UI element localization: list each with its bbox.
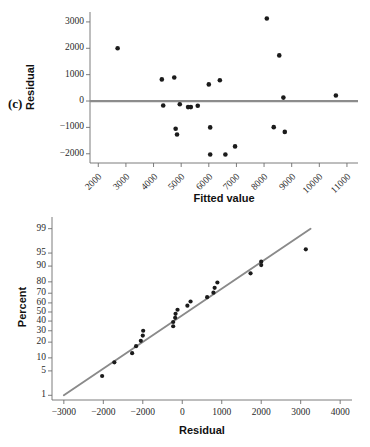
- data-point: [177, 102, 182, 107]
- data-point: [334, 93, 339, 98]
- data-point: [173, 312, 177, 316]
- y-axis-title-percent: Percent: [16, 277, 28, 337]
- data-point: [282, 130, 287, 135]
- data-point: [172, 75, 177, 80]
- data-point: [100, 374, 104, 378]
- data-point: [115, 46, 120, 51]
- tick-label: −1000: [48, 121, 84, 131]
- tick-label: 1000: [202, 407, 242, 417]
- data-point: [175, 308, 179, 312]
- chart-residuals-vs-fitted: −2000−10000100020003000 2000300040005000…: [0, 0, 370, 212]
- tick-label: 99: [22, 223, 46, 233]
- data-point: [277, 53, 282, 58]
- tick-label: 3000: [48, 16, 84, 26]
- tick-label: 95: [22, 247, 46, 257]
- data-point: [112, 360, 116, 364]
- tick-label: 3000: [281, 407, 321, 417]
- tick-label: 0: [162, 407, 202, 417]
- data-point: [207, 82, 212, 87]
- tick-label: 20: [22, 336, 46, 346]
- data-point: [304, 247, 308, 251]
- data-point: [211, 291, 215, 295]
- data-point: [141, 333, 145, 337]
- data-point: [161, 103, 166, 108]
- chart-normal-probability-plot: 151020304050607080909599 −3000−2000−2000…: [0, 212, 370, 447]
- tick-label: −2000: [48, 148, 84, 158]
- data-point: [141, 329, 145, 333]
- data-point: [173, 126, 178, 131]
- data-point: [271, 125, 276, 130]
- data-point: [233, 144, 238, 149]
- tick-label: 2000: [48, 42, 84, 52]
- data-point: [205, 295, 209, 299]
- x-axis-title-residual: Residual: [157, 424, 247, 436]
- data-point: [281, 95, 286, 100]
- tick-label: −2000: [123, 407, 163, 417]
- data-point: [188, 299, 192, 303]
- tick-label: 2000: [241, 407, 281, 417]
- data-point: [185, 304, 189, 308]
- data-point: [171, 324, 175, 328]
- data-point: [139, 339, 143, 343]
- y-axis-title-residual: Residual: [24, 57, 36, 117]
- data-point: [265, 16, 270, 21]
- tick-label: −3000: [44, 407, 84, 417]
- x-axis-title-fitted-value: Fitted value: [184, 192, 264, 204]
- tick-label: −2000: [83, 407, 123, 417]
- data-point: [195, 103, 200, 108]
- data-point: [171, 320, 175, 324]
- data-point: [248, 271, 252, 275]
- tick-label: 5: [22, 365, 46, 375]
- data-point: [189, 105, 194, 110]
- tick-label: 90: [22, 260, 46, 270]
- data-point: [160, 77, 165, 82]
- data-point: [223, 152, 228, 157]
- data-point: [259, 260, 263, 264]
- tick-label: 10: [22, 352, 46, 362]
- data-point: [130, 351, 134, 355]
- tick-label: 1000: [48, 69, 84, 79]
- tick-label: 4000: [320, 407, 360, 417]
- figure-container: (c) −2000−10000100020003000 200030004000…: [0, 0, 370, 447]
- tick-label: 0: [48, 95, 84, 105]
- tick-label: 1: [22, 389, 46, 399]
- data-point: [208, 152, 213, 157]
- data-point: [173, 316, 177, 320]
- data-point: [215, 280, 219, 284]
- data-point: [134, 344, 138, 348]
- data-point: [213, 286, 217, 290]
- data-point: [175, 132, 180, 137]
- data-point: [208, 125, 213, 130]
- data-point: [218, 78, 223, 83]
